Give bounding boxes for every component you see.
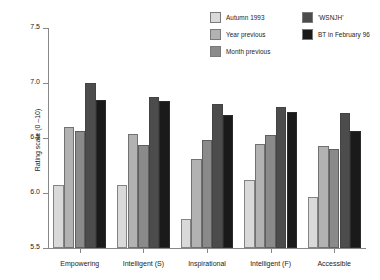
legend-item-wsnjh: 'WSNJH' [302,10,370,25]
bar [159,101,170,248]
bar [340,113,351,248]
x-axis-tick-label: Intelligent (F) [250,260,291,267]
y-axis-tick: 7.0 [43,83,48,84]
bar [287,112,298,248]
legend-label: 'WSNJH' [318,14,344,21]
bar [265,135,276,248]
bar [318,146,329,248]
bar [53,185,64,248]
bar [202,140,213,248]
bar [350,131,361,248]
y-axis-tick: 6.0 [43,193,48,194]
x-axis-tick [334,248,335,253]
bar [276,107,287,248]
bar [255,144,266,249]
x-axis-tick-label: Inspirational [188,260,226,267]
legend-item-autumn-1993: Autumn 1993 [210,10,270,25]
bar [329,149,340,248]
y-axis-tick: 6.5 [43,138,48,139]
chart-figure: Autumn 1993 Year previous Month previous… [0,0,380,280]
x-axis-tick [80,248,81,253]
x-axis-tick-label: Intelligent (S) [123,260,164,267]
bar [244,180,255,248]
legend-swatch-icon [210,12,221,23]
bar [85,83,96,248]
y-axis-line [48,28,49,248]
y-axis-tick: 7.5 [43,28,48,29]
bar [181,219,192,248]
x-axis-tick [271,248,272,253]
y-axis-tick: 5.5 [43,248,48,249]
x-axis-tick-label: Accessible [317,260,350,267]
plot-area: 5.56.06.57.07.5 EmpoweringIntelligent (S… [48,28,366,248]
bar [75,131,86,248]
bar [223,115,234,248]
y-axis-tick-label: 6.5 [30,133,40,140]
bar [96,100,107,249]
bar [64,127,75,248]
y-axis-tick-label: 6.0 [30,188,40,195]
bar [128,134,139,248]
bar [212,104,223,248]
x-axis-tick [207,248,208,253]
legend-label: Autumn 1993 [226,14,265,21]
bar [117,185,128,248]
y-axis-tick-label: 5.5 [30,243,40,250]
y-axis-title: Rating scale (0 –10) [34,109,41,172]
x-axis-tick-label: Empowering [60,260,99,267]
bar [149,97,160,248]
y-axis-tick-label: 7.0 [30,78,40,85]
bar [308,197,319,248]
legend-swatch-icon [302,12,313,23]
y-axis-tick-label: 7.5 [30,23,40,30]
bar [191,159,202,248]
x-axis-tick [143,248,144,253]
bar [138,145,149,248]
